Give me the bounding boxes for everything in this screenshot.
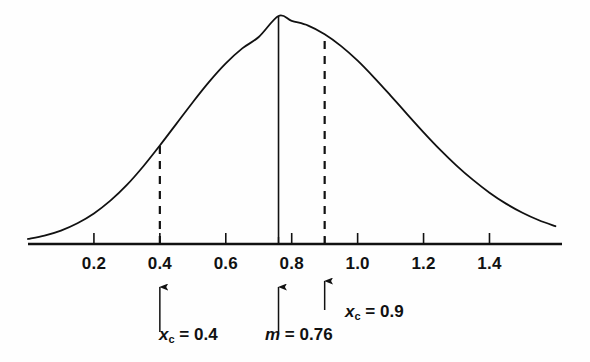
x-tick-label-0-4: 0.4 [148,255,172,272]
annotation-value-xc-high: 0.9 [380,302,404,321]
annotation-subscript-xc-high: c [354,310,360,322]
distribution-curve [28,15,555,239]
x-tick-label-1-2: 1.2 [411,255,435,272]
x-tick-label-0-6: 0.6 [214,255,238,272]
annotation-value-xc-low: 0.4 [194,325,218,344]
annotation-equals-xc-high: = [365,302,375,321]
vertical-reference-lines [160,16,325,244]
x-tick-label-0-2: 0.2 [82,255,106,272]
annotation-equals-mean: = [285,325,295,344]
x-tick-label-1-4: 1.4 [477,255,501,272]
annotation-label-xc-low: xc = 0.4 [159,326,218,343]
annotation-symbol-mean: m [265,325,280,344]
x-tick-label-0-8: 0.8 [280,255,304,272]
annotation-equals-xc-low: = [179,325,189,344]
x-tick-label-1-0: 1.0 [346,255,370,272]
x-axis-ticks [94,233,490,244]
annotation-value-mean: 0.76 [300,325,333,344]
annotation-label-xc-high: xc = 0.9 [345,303,404,320]
annotation-subscript-xc-low: c [168,333,174,345]
gaussian-distribution-figure: 0.20.40.60.81.01.21.4 xc = 0.4 m = 0.76 … [0,0,590,362]
plot-canvas [0,0,590,362]
annotation-label-mean: m = 0.76 [265,326,333,343]
